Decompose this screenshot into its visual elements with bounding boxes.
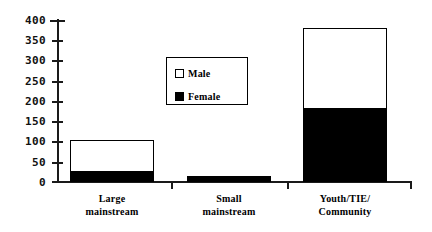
x-tick-mark-2 [287, 181, 289, 189]
y-tick-group-200: 200 [0, 96, 46, 107]
bar-segment-male-large-mainstream [71, 141, 153, 173]
bar-chart: 400 350 300 250 200 150 100 50 0 [0, 0, 432, 232]
x-tick-mark-3 [410, 181, 412, 189]
y-tick-mark-100 [52, 141, 63, 143]
bar-youth-tie-community [303, 28, 387, 182]
y-tick-group-150: 150 [0, 116, 46, 127]
y-tick-mark-350 [52, 40, 63, 42]
y-tick-label-250: 250 [0, 76, 46, 87]
legend-swatch-male-icon [175, 69, 184, 78]
legend: Male Female [166, 57, 248, 105]
y-tick-group-250: 250 [0, 76, 46, 87]
y-tick-label-300: 300 [0, 55, 46, 66]
y-tick-mark-250 [52, 81, 63, 83]
y-tick-label-400: 400 [0, 15, 46, 26]
bar-segment-female-large-mainstream [71, 171, 153, 181]
y-tick-mark-300 [52, 60, 63, 62]
x-axis-label-small-mainstream-line1: Small [179, 192, 279, 205]
y-tick-group-400: 400 [0, 15, 46, 26]
bar-segment-male-youth-tie-community [304, 29, 386, 110]
x-axis-label-youth-tie-community-line2: Community [295, 205, 395, 218]
y-tick-group-0: 0 [0, 177, 46, 188]
x-tick-mark-1 [171, 181, 173, 189]
x-axis-label-large-mainstream-line1: Large [62, 192, 162, 205]
y-tick-label-150: 150 [0, 116, 46, 127]
x-axis-label-small-mainstream-line2: mainstream [179, 205, 279, 218]
y-tick-mark-400 [50, 20, 65, 22]
bar-segment-female-small-mainstream [188, 177, 270, 181]
y-tick-label-0: 0 [0, 177, 46, 188]
y-tick-group-350: 350 [0, 35, 46, 46]
legend-swatch-female-icon [175, 92, 184, 101]
y-tick-group-50: 50 [0, 157, 46, 168]
x-axis-label-youth-tie-community-line1: Youth/TIE/ [295, 192, 395, 205]
x-axis-label-youth-tie-community: Youth/TIE/ Community [295, 192, 395, 218]
y-tick-group-100: 100 [0, 136, 46, 147]
legend-label-female: Female [188, 92, 220, 102]
y-tick-group-300: 300 [0, 55, 46, 66]
x-axis-label-large-mainstream: Large mainstream [62, 192, 162, 218]
y-tick-label-50: 50 [0, 157, 46, 168]
y-tick-label-100: 100 [0, 136, 46, 147]
y-tick-mark-50 [52, 162, 63, 164]
y-tick-label-200: 200 [0, 96, 46, 107]
x-axis-label-large-mainstream-line2: mainstream [62, 205, 162, 218]
y-tick-mark-150 [52, 121, 63, 123]
legend-label-male: Male [188, 69, 210, 79]
y-tick-label-350: 350 [0, 35, 46, 46]
legend-item-male: Male [175, 65, 247, 82]
y-tick-mark-200 [52, 101, 63, 103]
bar-small-mainstream [187, 176, 271, 182]
bar-large-mainstream [70, 140, 154, 182]
x-axis-label-small-mainstream: Small mainstream [179, 192, 279, 218]
legend-item-female: Female [175, 88, 247, 105]
bar-segment-female-youth-tie-community [304, 108, 386, 181]
